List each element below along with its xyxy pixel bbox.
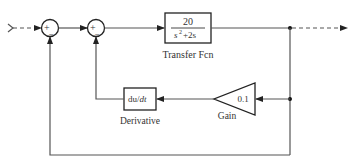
tf-numerator: 20 <box>183 16 193 27</box>
transfer-fcn-label: Transfer Fcn <box>162 49 213 60</box>
derivative-block[interactable]: du/dt <box>124 88 156 110</box>
derivative-to-sum2-line <box>96 37 124 99</box>
transfer-fcn-block[interactable]: 20 s 2 +2s <box>165 13 211 43</box>
tf-denominator-s: s <box>174 30 178 40</box>
input-chevron-icon <box>8 24 13 32</box>
block-diagram: + − + − 20 s 2 +2s Transfer Fcn 0.1 Gain <box>0 0 355 165</box>
sum1-minus-sign: − <box>49 29 54 39</box>
derivative-dt: dt <box>140 94 148 104</box>
derivative-expression: du/dt <box>128 94 147 104</box>
input-port[interactable] <box>8 24 41 32</box>
derivative-label: Derivative <box>120 116 160 126</box>
sum-block-2[interactable]: + − <box>88 20 105 40</box>
sum2-minus-sign: − <box>95 29 100 39</box>
tf-denominator-exp: 2 <box>179 29 182 35</box>
gain-label: Gain <box>218 111 237 121</box>
sum-block-1[interactable]: + − <box>42 20 59 40</box>
gain-value: 0.1 <box>237 94 248 104</box>
tf-denominator-rest: +2s <box>183 30 197 40</box>
